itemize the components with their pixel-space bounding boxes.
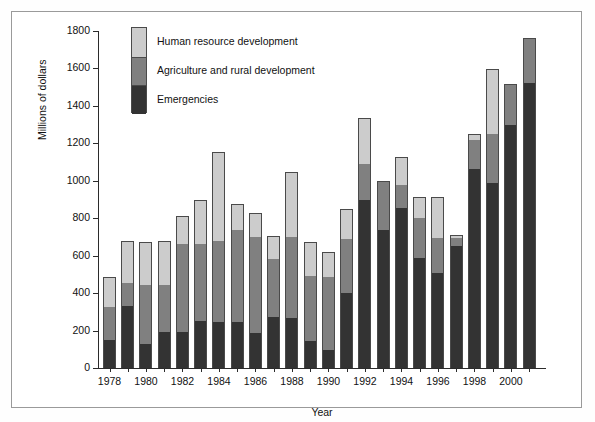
- y-tick-mark: [93, 293, 98, 294]
- bar-segment-human-resource-development: [395, 157, 408, 185]
- bar-segment-emergencies: [395, 207, 408, 368]
- x-tick-mark: [255, 368, 256, 372]
- bar-1998[interactable]: [468, 25, 481, 368]
- bar-segment-human-resource-development: [212, 152, 225, 241]
- bar-segment-emergencies: [285, 317, 298, 368]
- x-tick-label: 1992: [353, 375, 376, 387]
- bar-segment-human-resource-development: [468, 134, 481, 140]
- bar-segment-human-resource-development: [450, 235, 463, 238]
- bar-segment-agriculture-and-rural-development: [395, 184, 408, 207]
- bar-1997[interactable]: [450, 25, 463, 368]
- x-tick-mark: [474, 368, 475, 372]
- x-tick-label: 1996: [426, 375, 449, 387]
- x-tick-label: 1994: [390, 375, 413, 387]
- y-tick-mark: [93, 143, 98, 144]
- x-tick-mark: [128, 368, 129, 372]
- y-tick-mark: [93, 256, 98, 257]
- x-tick-mark: [292, 368, 293, 372]
- bar-segment-emergencies: [523, 82, 536, 368]
- bar-segment-human-resource-development: [358, 118, 371, 164]
- bar-segment-human-resource-development: [285, 172, 298, 237]
- bar-segment-emergencies: [431, 272, 444, 368]
- legend-swatch-2: [132, 85, 146, 114]
- y-tick-label: 200: [72, 323, 90, 338]
- x-tick-mark: [529, 368, 530, 372]
- y-axis-line: [98, 31, 99, 368]
- y-tick-mark: [93, 68, 98, 69]
- y-tick-mark: [93, 181, 98, 182]
- x-tick-mark: [146, 368, 147, 372]
- legend-label-0: Human resource development: [157, 35, 298, 47]
- x-tick-label: 2000: [499, 375, 522, 387]
- bar-segment-human-resource-development: [413, 197, 426, 219]
- bar-segment-human-resource-development: [322, 252, 335, 277]
- bar-1996[interactable]: [431, 25, 444, 368]
- bar-segment-human-resource-development: [231, 204, 244, 230]
- bar-segment-agriculture-and-rural-development: [358, 163, 371, 200]
- y-tick-mark: [93, 106, 98, 107]
- bar-segment-emergencies: [158, 331, 171, 369]
- bar-1999[interactable]: [486, 25, 499, 368]
- x-tick-mark: [164, 368, 165, 372]
- x-tick-mark: [511, 368, 512, 372]
- bar-2000[interactable]: [504, 25, 517, 368]
- legend-label-2: Emergencies: [157, 93, 218, 105]
- x-tick-mark: [401, 368, 402, 372]
- x-tick-mark: [237, 368, 238, 372]
- bar-segment-emergencies: [468, 168, 481, 368]
- bar-segment-agriculture-and-rural-development: [340, 238, 353, 293]
- bar-segment-emergencies: [340, 292, 353, 368]
- x-tick-label: 1998: [463, 375, 486, 387]
- y-tick-mark: [93, 31, 98, 32]
- bar-segment-agriculture-and-rural-development: [194, 243, 207, 321]
- bar-segment-agriculture-and-rural-development: [176, 243, 189, 333]
- y-tick-label: 800: [72, 210, 90, 225]
- y-tick-label: 1200: [67, 135, 90, 150]
- y-tick-label: 1800: [67, 23, 90, 38]
- bar-2001[interactable]: [523, 25, 536, 368]
- bar-segment-agriculture-and-rural-development: [504, 84, 517, 124]
- bar-segment-agriculture-and-rural-development: [431, 237, 444, 273]
- bar-segment-emergencies: [504, 124, 517, 368]
- legend-label-1: Agriculture and rural development: [157, 64, 315, 76]
- y-tick-label: 1600: [67, 60, 90, 75]
- bar-segment-agriculture-and-rural-development: [231, 229, 244, 322]
- x-tick-mark: [274, 368, 275, 372]
- x-axis-label: Year: [98, 406, 546, 418]
- x-tick-label: 1988: [280, 375, 303, 387]
- bar-segment-emergencies: [358, 199, 371, 369]
- y-tick-label: 400: [72, 285, 90, 300]
- bar-segment-agriculture-and-rural-development: [121, 282, 134, 306]
- bar-segment-human-resource-development: [340, 209, 353, 239]
- chart-figure: 020040060080010001200140016001800 197819…: [0, 0, 595, 422]
- y-tick-label: 0: [84, 360, 90, 375]
- bar-segment-human-resource-development: [158, 241, 171, 285]
- x-tick-label: 1984: [207, 375, 230, 387]
- chart-legend: Human resource developmentAgriculture an…: [131, 27, 431, 113]
- bar-segment-human-resource-development: [267, 236, 280, 259]
- bar-segment-agriculture-and-rural-development: [322, 276, 335, 350]
- bar-segment-agriculture-and-rural-development: [486, 133, 499, 183]
- x-tick-mark: [182, 368, 183, 372]
- bar-segment-emergencies: [212, 321, 225, 368]
- x-tick-mark: [110, 368, 111, 372]
- x-tick-label: 1980: [134, 375, 157, 387]
- bar-1978[interactable]: [103, 25, 116, 368]
- x-tick-label: 1986: [244, 375, 267, 387]
- x-tick-mark: [201, 368, 202, 372]
- bar-segment-emergencies: [249, 332, 262, 368]
- x-tick-mark: [328, 368, 329, 372]
- legend-swatch-1: [132, 57, 146, 86]
- bar-segment-emergencies: [267, 316, 280, 368]
- bar-segment-agriculture-and-rural-development: [304, 275, 317, 341]
- x-tick-mark: [420, 368, 421, 372]
- x-tick-mark: [365, 368, 366, 372]
- bar-segment-agriculture-and-rural-development: [158, 284, 171, 332]
- y-tick-mark: [93, 331, 98, 332]
- bar-segment-emergencies: [304, 340, 317, 368]
- bar-segment-agriculture-and-rural-development: [103, 306, 116, 340]
- legend-swatch-0: [132, 28, 146, 57]
- y-axis-label: Millions of dollars: [36, 59, 48, 140]
- x-tick-mark: [310, 368, 311, 372]
- bar-segment-emergencies: [194, 320, 207, 368]
